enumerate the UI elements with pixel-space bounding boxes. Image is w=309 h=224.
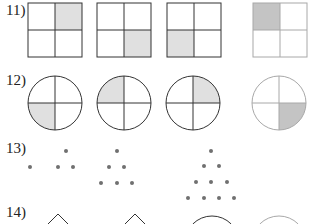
circle-figure-3 [166, 76, 220, 130]
circle-answer [252, 76, 306, 130]
worksheet-figures [0, 0, 309, 224]
square-answer [253, 3, 307, 57]
circle-shape-3 [185, 216, 239, 224]
dot-triangle-6 [99, 149, 134, 185]
square-figure-2 [97, 3, 151, 57]
circle-figure-1 [28, 76, 82, 130]
square-figure-3 [167, 3, 221, 57]
dot-triangle-1 [28, 165, 32, 169]
dot-triangle-3 [56, 149, 75, 169]
circle-figure-2 [97, 76, 151, 130]
diamond-figure-1 [48, 214, 68, 224]
diamond-figure-2 [125, 214, 145, 224]
dot-triangle-10 [186, 149, 236, 200]
circle-shape-answer [252, 216, 306, 224]
square-figure-1 [28, 3, 82, 57]
